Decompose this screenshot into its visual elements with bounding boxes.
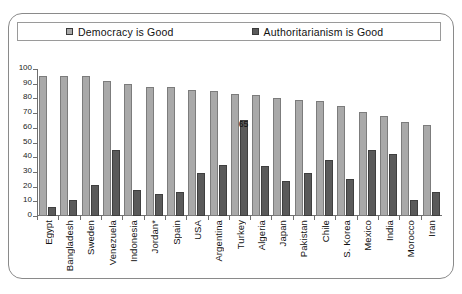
bar-group[interactable] xyxy=(144,69,165,216)
bar-group[interactable]: 65 xyxy=(229,69,250,216)
bar-democracy-spain[interactable] xyxy=(167,87,175,216)
plot-area: 0102030405060708090100 65 xyxy=(37,69,442,216)
legend-swatch-democracy-icon xyxy=(66,28,73,35)
x-axis-labels: EgyptBangladeshSwedenVenezuelaIndonesiaJ… xyxy=(37,220,442,288)
bar-democracy-mexico[interactable] xyxy=(359,112,367,216)
y-axis-tick-label: 10 xyxy=(23,195,32,204)
x-axis-label-turkey: Turkey xyxy=(235,220,246,249)
y-axis-tick-label: 90 xyxy=(23,78,32,87)
x-axis-label-jordan-: Jordan* xyxy=(149,220,160,253)
bar-authoritarianism-mexico[interactable] xyxy=(368,150,376,216)
legend-label-democracy: Democracy is Good xyxy=(78,26,174,38)
x-axis-label-spain: Spain xyxy=(171,220,182,245)
bar-democracy-jordan-[interactable] xyxy=(146,87,154,216)
bar-authoritarianism-chile[interactable] xyxy=(325,160,333,216)
bar-democracy-indonesia[interactable] xyxy=(124,84,132,216)
bar-democracy-argentina[interactable] xyxy=(210,91,218,216)
x-axis-label-bangladesh: Bangladesh xyxy=(64,220,75,271)
bar-democracy-chile[interactable] xyxy=(316,101,324,216)
x-axis-label-pakistan: Pakistan xyxy=(298,220,309,257)
x-axis-label-sweden: Sweden xyxy=(85,220,96,255)
bar-group[interactable] xyxy=(250,69,271,216)
bar-authoritarianism-venezuela[interactable] xyxy=(112,150,120,216)
bar-group[interactable] xyxy=(399,69,420,216)
bar-group[interactable] xyxy=(378,69,399,216)
x-axis-label-venezuela: Venezuela xyxy=(107,220,118,265)
legend-entry-authoritarianism: Authoritarianism is Good xyxy=(252,26,384,38)
bar-authoritarianism-morocco[interactable] xyxy=(410,200,418,216)
bar-democracy-pakistan[interactable] xyxy=(295,100,303,216)
y-axis-tick-label: 0 xyxy=(28,210,32,219)
bar-group[interactable] xyxy=(421,69,442,216)
bar-group[interactable] xyxy=(165,69,186,216)
bar-authoritarianism-bangladesh[interactable] xyxy=(69,200,77,216)
bar-group[interactable] xyxy=(101,69,122,216)
bar-democracy-japan[interactable] xyxy=(273,98,281,216)
bar-democracy-sweden[interactable] xyxy=(82,76,90,216)
bar-democracy-turkey[interactable] xyxy=(231,94,239,216)
bar-group[interactable] xyxy=(357,69,378,216)
bar-group[interactable] xyxy=(314,69,335,216)
bar-group[interactable] xyxy=(271,69,292,216)
bar-group[interactable] xyxy=(58,69,79,216)
bar-authoritarianism-s-korea[interactable] xyxy=(346,179,354,216)
bar-group[interactable] xyxy=(80,69,101,216)
x-axis-label-s-korea: S. Korea xyxy=(341,220,352,258)
x-axis-label-japan: Japan xyxy=(277,220,288,246)
x-axis-label-usa: USA xyxy=(192,220,203,240)
y-axis-tick-label: 30 xyxy=(23,166,32,175)
x-axis-label-algeria: Algeria xyxy=(256,220,267,250)
x-axis-label-egypt: Egypt xyxy=(43,220,54,245)
bar-democracy-egypt[interactable] xyxy=(39,76,47,216)
x-axis-label-morocco: Morocco xyxy=(405,220,416,257)
y-axis-tick-label: 80 xyxy=(23,92,32,101)
bar-group[interactable] xyxy=(186,69,207,216)
bar-group[interactable] xyxy=(293,69,314,216)
y-axis-tick-label: 70 xyxy=(23,107,32,116)
legend-entry-democracy: Democracy is Good xyxy=(66,26,174,38)
bar-democracy-morocco[interactable] xyxy=(401,122,409,216)
bar-authoritarianism-turkey[interactable] xyxy=(240,120,248,216)
bar-group[interactable] xyxy=(37,69,58,216)
bar-authoritarianism-japan[interactable] xyxy=(282,181,290,216)
bar-authoritarianism-egypt[interactable] xyxy=(48,207,56,216)
bar-democracy-venezuela[interactable] xyxy=(103,81,111,216)
y-axis-tick-label: 60 xyxy=(23,122,32,131)
y-axis-tick-label: 100 xyxy=(19,63,32,72)
x-axis-label-mexico: Mexico xyxy=(362,220,373,251)
chart-frame: Democracy is Good Authoritarianism is Go… xyxy=(8,13,454,279)
x-axis-label-india: India xyxy=(384,220,395,241)
bar-democracy-iran[interactable] xyxy=(423,125,431,216)
bar-group[interactable] xyxy=(122,69,143,216)
legend-label-authoritarianism: Authoritarianism is Good xyxy=(264,26,384,38)
bar-democracy-usa[interactable] xyxy=(188,90,196,216)
bar-group[interactable] xyxy=(208,69,229,216)
bar-authoritarianism-spain[interactable] xyxy=(176,192,184,216)
bar-group[interactable] xyxy=(335,69,356,216)
bar-democracy-india[interactable] xyxy=(380,116,388,216)
bar-authoritarianism-jordan-[interactable] xyxy=(155,194,163,216)
x-axis-label-indonesia: Indonesia xyxy=(128,220,139,262)
x-axis-label-chile: Chile xyxy=(320,220,331,242)
bar-democracy-s-korea[interactable] xyxy=(337,106,345,216)
chart-legend: Democracy is Good Authoritarianism is Go… xyxy=(17,22,441,41)
bar-authoritarianism-algeria[interactable] xyxy=(261,166,269,216)
bar-authoritarianism-usa[interactable] xyxy=(197,173,205,216)
y-axis-tick-label: 40 xyxy=(23,151,32,160)
x-axis-label-argentina: Argentina xyxy=(213,220,224,262)
bar-authoritarianism-indonesia[interactable] xyxy=(133,190,141,216)
y-axis-tick-label: 50 xyxy=(23,137,32,146)
bar-value-label: 65 xyxy=(239,119,248,129)
bar-democracy-algeria[interactable] xyxy=(252,95,260,216)
bar-authoritarianism-india[interactable] xyxy=(389,154,397,216)
bar-authoritarianism-iran[interactable] xyxy=(432,192,440,216)
x-axis-label-iran: Iran xyxy=(426,220,437,237)
legend-swatch-authoritarianism-icon xyxy=(252,28,259,35)
bar-authoritarianism-argentina[interactable] xyxy=(219,165,227,216)
y-axis-tick-label: 20 xyxy=(23,181,32,190)
bar-authoritarianism-sweden[interactable] xyxy=(91,185,99,216)
bar-democracy-bangladesh[interactable] xyxy=(60,76,68,216)
bar-authoritarianism-pakistan[interactable] xyxy=(304,173,312,216)
